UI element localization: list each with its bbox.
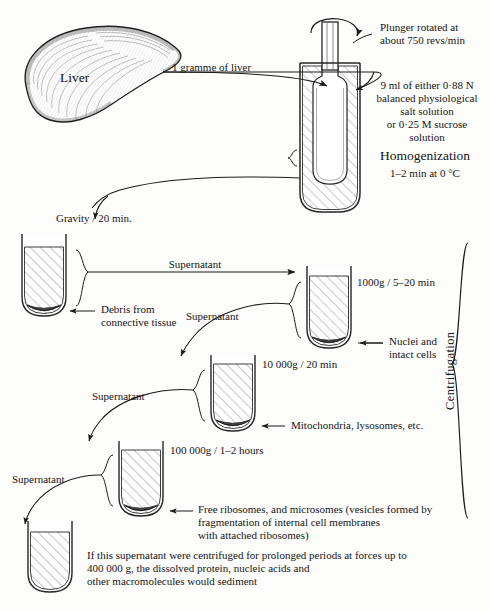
force-label-10000g: 10 000g / 20 min [262,358,337,371]
force-label-gravity: Gravity / 20 min. [56,212,132,225]
pellet-label-mitochondria: Mitochondria, lysosomes, etc. [291,419,423,432]
force-label-1000g: 1000g / 5–20 min [357,276,435,289]
homogenization-medium-note: 9 ml of either 0·88 N balanced physiolog… [366,79,488,144]
plunger-note: Plunger rotated at about 750 revs/min [380,21,465,47]
force-label-100000g: 100 000g / 1–2 hours [170,444,264,457]
homogenizer-apparatus [300,19,360,212]
supernatant-label-4: Supernatant [12,473,65,486]
figure-cell-fractionation: Liver 1 gramme of liver Plunger rotated … [0,0,489,611]
homogenization-label: Homogenization [362,148,488,164]
pellet-label-microsomes: Free ribosomes, and microsomes (vesicles… [198,503,432,542]
pellet-label-nuclei: Nuclei and intact cells [389,335,437,361]
homogenization-conditions: 1–2 min at 0 °C [362,167,488,180]
footnote-text: If this supernatant were centrifuged for… [87,549,407,588]
supernatant-label-1: Supernatant [140,258,250,271]
transfer-arrow-homogenate [92,150,300,219]
centrifugation-label: Centrifugation [443,331,458,410]
tube-final-supernatant [28,521,72,592]
supernatant-label-2: Supernatant [186,310,239,323]
liver-label: Liver [60,70,89,86]
supernatant-label-3: Supernatant [92,390,145,403]
liver-illustration [25,26,181,122]
transfer-label-liver: 1 gramme of liver [172,61,251,74]
tube-gravity [22,234,88,316]
tube-mitochondria [193,355,255,431]
tube-nuclei [289,266,351,348]
pellet-label-debris: Debris from connective tissue [101,303,176,329]
tube-microsomes [101,441,163,516]
